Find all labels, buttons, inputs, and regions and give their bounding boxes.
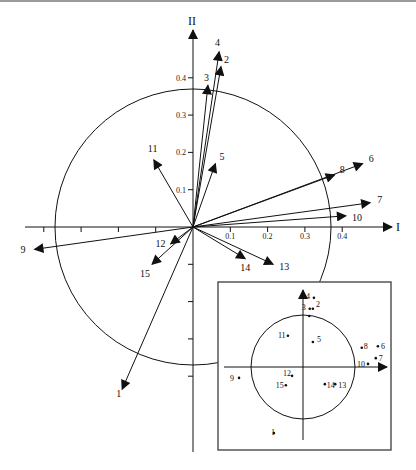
inset-dot: [308, 315, 311, 318]
inset-dot: [238, 377, 241, 380]
inset-point-unlabeled: [308, 315, 311, 318]
inset-point-label: 2: [316, 300, 320, 309]
vector-arrow: [34, 227, 193, 249]
inset-point-label: 12: [283, 369, 291, 378]
inset-dot: [308, 307, 311, 310]
x-tick-label: 0.4: [337, 232, 347, 241]
vector-1: 1: [116, 227, 193, 399]
vector-label: 12: [156, 238, 166, 249]
inset-point-label: 8: [364, 342, 368, 351]
inset-point-label: 15: [276, 381, 284, 390]
x-tick-label: 0.2: [263, 232, 273, 241]
inset-dot: [377, 345, 380, 348]
inset-point-label: 14: [327, 381, 335, 390]
vector-label: 11: [148, 143, 158, 154]
inset-dot: [287, 335, 290, 338]
x-tick-label: 0.1: [225, 232, 235, 241]
vector-4: 4: [193, 37, 220, 227]
vector-label: 7: [377, 194, 382, 205]
vector-label: 2: [224, 54, 229, 65]
inset-point-label: 1: [271, 428, 275, 437]
vector-5: 5: [193, 151, 224, 227]
vector-10: 10: [193, 212, 362, 227]
vector-label: 1: [116, 388, 121, 399]
inset-dot: [313, 297, 316, 300]
inset-dot: [291, 375, 294, 378]
vector-6: 6: [193, 153, 374, 227]
inset-point-label: 3: [302, 303, 306, 312]
y-tick-label: 0.2: [176, 148, 186, 157]
inset-point-label: 11: [278, 331, 286, 340]
x-tick-label: 0.3: [300, 232, 310, 241]
inset-dot: [367, 363, 370, 366]
inset-point-label: 13: [338, 381, 346, 390]
inset-dot: [360, 346, 363, 349]
vector-label: 3: [204, 72, 209, 83]
inset-dot: [312, 307, 315, 310]
inset-point-1: 1: [271, 428, 275, 437]
vector-label: 4: [215, 37, 220, 48]
y-ticks: 0.10.20.30.4: [176, 74, 193, 376]
vector-2: 2: [193, 54, 229, 227]
inset-point-label: 4: [306, 292, 310, 301]
inset-dot: [285, 384, 288, 387]
vector-label: 6: [369, 153, 374, 164]
inset-point-label: 7: [379, 354, 383, 363]
inset-dot: [312, 341, 315, 344]
vector-label: 5: [219, 151, 224, 162]
vector-label: 14: [240, 262, 250, 273]
vector-label: 8: [340, 164, 345, 175]
inset-point-label: 5: [317, 335, 321, 344]
vector-label: 15: [140, 268, 150, 279]
vector-arrow: [193, 227, 245, 259]
y-tick-label: 0.3: [176, 111, 186, 120]
y-tick-label: 0.4: [176, 74, 186, 83]
vector-arrow: [193, 203, 370, 227]
inset-point-label: 10: [357, 360, 365, 369]
inset-point-label: 6: [381, 342, 385, 351]
y-tick-label: 0.1: [176, 186, 186, 195]
vector-12: 12: [156, 227, 193, 249]
inset-plot: 123456789101112131415: [218, 282, 391, 450]
vector-arrow: [154, 160, 193, 227]
vector-arrow: [193, 216, 346, 227]
vector-15: 15: [140, 227, 193, 279]
vector-arrow: [193, 175, 335, 227]
inset-dot: [324, 383, 327, 386]
inset-point-label: 9: [230, 374, 234, 383]
vector-label: 10: [352, 212, 362, 223]
vector-11: 11: [148, 143, 193, 227]
vector-label: 13: [279, 261, 289, 272]
inset-dot: [375, 357, 378, 360]
y-axis-label: II: [188, 14, 196, 28]
vector-label: 9: [20, 244, 25, 255]
correlation-circle-figure: 0.10.20.30.4 0.10.20.30.4 I II 123456789…: [0, 0, 416, 470]
x-axis-label: I: [396, 220, 400, 234]
